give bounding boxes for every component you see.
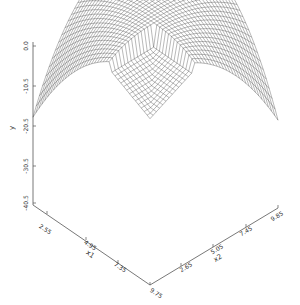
x1-tick-2: 7.35 [113,260,128,273]
mesh-line [113,0,230,72]
surface-mesh [33,0,278,120]
x1-tick-0: 2.55 [38,222,53,235]
mesh-line [55,32,172,94]
x2-tick-0: 2.65 [178,260,193,273]
axes [33,42,278,285]
mesh-line [39,53,156,111]
z-tick-2: -20.5 [22,118,29,134]
mesh-line [42,0,170,104]
mesh-line [51,0,179,93]
mesh-line [151,0,268,107]
x2-tick-3: 9.85 [269,209,284,222]
tick-labels: 0.0 -10.5 -20.5 -30.5 -40.5 y 2.55 4.95 … [8,41,284,300]
mesh-line [48,0,176,97]
tick-marks [33,46,278,285]
mesh-line [141,50,269,108]
mesh-line [121,20,249,83]
mesh-line [135,42,263,101]
surface-plot: 0.0 -10.5 -20.5 -30.5 -40.5 y 2.55 4.95 … [0,0,300,305]
mesh-line [144,54,272,111]
z-axis-label: y [8,126,16,130]
z-tick-4: -40.5 [22,195,29,211]
mesh-line [132,37,260,97]
mesh-line [33,62,150,119]
mesh-line [33,0,161,117]
z-tick-1: -10.5 [22,78,29,94]
x1-tick-3: 9.75 [149,286,164,299]
z-tick-0: 0.0 [22,41,29,51]
x2-tick-2: 7.45 [238,224,253,237]
mesh-line [46,45,163,105]
mesh-line [127,29,255,91]
mesh-line [158,0,275,116]
mesh-line [62,23,179,87]
z-tick-3: -30.5 [22,158,29,174]
